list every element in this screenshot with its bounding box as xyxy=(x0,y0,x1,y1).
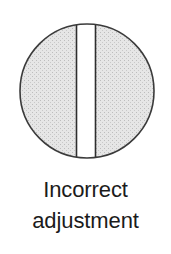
caption-block: Incorrect adjustment xyxy=(0,174,171,236)
caption-line-1: Incorrect xyxy=(0,174,171,205)
figure-root: Incorrect adjustment xyxy=(0,0,171,254)
circle-diagram-svg xyxy=(0,0,171,172)
vertical-band-group xyxy=(76,14,96,168)
diagram-area xyxy=(0,0,171,172)
vertical-band xyxy=(76,14,96,168)
caption-line-2: adjustment xyxy=(0,205,171,236)
